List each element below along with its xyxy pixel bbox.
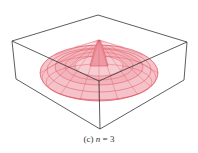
figure-panel: (c) n = 3 xyxy=(0,0,198,153)
bounding-box-back xyxy=(12,15,187,42)
surface-plot xyxy=(0,0,198,153)
figure-caption: (c) n = 3 xyxy=(0,134,198,144)
